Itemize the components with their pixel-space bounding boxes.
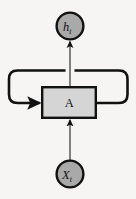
cell-box-label: A [65,96,74,110]
rnn-cell-box[interactable]: A [42,87,96,118]
diagram-canvas: A ht Xt [0,0,136,199]
output-node-ht[interactable]: ht [57,13,84,40]
rnn-cell-diagram: A ht Xt [0,0,136,199]
input-node-xt[interactable]: Xt [57,161,84,188]
